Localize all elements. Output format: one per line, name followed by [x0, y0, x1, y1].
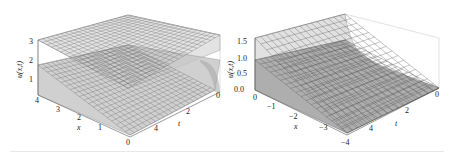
- t-tick: 2: [186, 107, 190, 116]
- z-tick: 1.5: [237, 37, 247, 46]
- t-tick: 4: [369, 124, 373, 133]
- x-tick: −4: [341, 138, 350, 147]
- t-axis-label: t: [395, 119, 398, 128]
- x-tick: 4: [35, 96, 39, 105]
- left-surface-plot: 3 2 1 u(x,t) 4 3 2 1 0 x 0 2 4 t: [0, 0, 227, 154]
- z-tick: 2: [29, 56, 33, 65]
- x-tick: −1: [267, 102, 276, 111]
- x-tick: 3: [56, 105, 60, 114]
- x-tick: −3: [319, 123, 328, 132]
- z-axis-label: u(x,t): [15, 61, 24, 78]
- z-axis-label: u(x,t): [227, 61, 235, 78]
- z-tick: 1.0: [237, 54, 247, 63]
- left-plot-canvas: 3 2 1 u(x,t) 4 3 2 1 0 x 0 2 4 t: [0, 0, 227, 154]
- t-axis-label: t: [178, 119, 181, 128]
- divider: [10, 151, 444, 152]
- t-tick: 0: [216, 91, 220, 100]
- x-axis-label: x: [293, 122, 298, 131]
- z-tick: 0.5: [237, 69, 247, 78]
- x-tick: 0: [126, 138, 130, 147]
- right-surface-plot: 1.5 1.0 0.5 0.0 u(x,t) 0 −1 −2 −3 −4 x 0…: [227, 0, 454, 154]
- z-tick: 0.0: [234, 85, 244, 94]
- t-tick: 4: [154, 124, 158, 133]
- x-tick: −2: [289, 112, 298, 121]
- z-tick: 3: [29, 37, 33, 46]
- x-tick: 2: [77, 113, 81, 122]
- right-plot-canvas: 1.5 1.0 0.5 0.0 u(x,t) 0 −1 −2 −3 −4 x 0…: [227, 0, 454, 154]
- x-tick: 0: [253, 93, 257, 102]
- x-axis-label: x: [76, 123, 81, 132]
- z-tick: 1: [29, 75, 33, 84]
- x-tick: 1: [98, 123, 102, 132]
- t-tick: 0: [435, 90, 439, 99]
- t-tick: 2: [405, 106, 409, 115]
